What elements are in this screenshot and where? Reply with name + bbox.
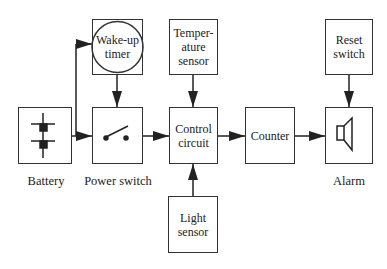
reset-switch-block: Resetswitch — [325, 19, 373, 75]
light-sensor-block: Lightsensor — [168, 196, 218, 253]
wakeup-timer-block: Wake-uptimer — [92, 19, 143, 75]
alarm-label: Alarm — [325, 174, 373, 189]
wakeup-line1: Wake-up — [96, 33, 139, 47]
control-line1: Control — [175, 122, 212, 136]
temperature-sensor-block: Temper-aturesensor — [169, 19, 218, 75]
light-line2: sensor — [178, 225, 209, 239]
wakeup-line2: timer — [105, 47, 130, 61]
temp-line2: ature — [182, 40, 206, 54]
temp-line1: Temper- — [173, 26, 213, 40]
control-circuit-block: Controlcircuit — [169, 107, 218, 164]
battery-block — [18, 107, 72, 164]
reset-line2: switch — [333, 47, 364, 61]
power-switch-label: Power switch — [82, 174, 154, 189]
light-line1: Light — [180, 211, 206, 225]
battery-label: Battery — [18, 174, 74, 189]
reset-line1: Reset — [336, 33, 363, 47]
alarm-block — [325, 107, 373, 164]
power-switch-block — [92, 107, 143, 164]
control-line2: circuit — [178, 136, 209, 150]
temp-line3: sensor — [178, 54, 209, 68]
counter-label: Counter — [251, 129, 290, 143]
counter-block: Counter — [245, 107, 295, 164]
